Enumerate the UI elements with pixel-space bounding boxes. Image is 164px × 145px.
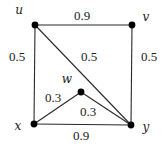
edge-u-x	[34, 25, 35, 124]
node-label-y: y	[142, 120, 150, 134]
node-label-v: v	[143, 10, 150, 24]
edge-v-y	[131, 25, 132, 125]
node-x	[31, 121, 38, 128]
node-label-x: x	[15, 119, 22, 133]
graph-diagram: u v w x y 0.9 0.5 0.5 0.5 0.3 0.3 0.9	[0, 0, 164, 145]
edge-weight-x-y: 0.9	[73, 128, 89, 143]
edge-x-y	[34, 124, 131, 125]
node-label-u: u	[15, 3, 23, 17]
edge-weight-v-y: 0.5	[141, 49, 157, 64]
node-w	[78, 89, 85, 96]
node-v	[129, 22, 136, 29]
edge-weight-u-y: 0.5	[81, 49, 97, 64]
edge-weight-u-x: 0.5	[9, 49, 25, 64]
edge-weight-x-w: 0.3	[45, 90, 61, 105]
node-u	[32, 22, 39, 29]
node-label-w: w	[62, 72, 73, 86]
node-y	[128, 122, 135, 129]
edge-weight-u-v: 0.9	[74, 8, 90, 23]
edge-weight-w-y: 0.3	[80, 104, 96, 119]
